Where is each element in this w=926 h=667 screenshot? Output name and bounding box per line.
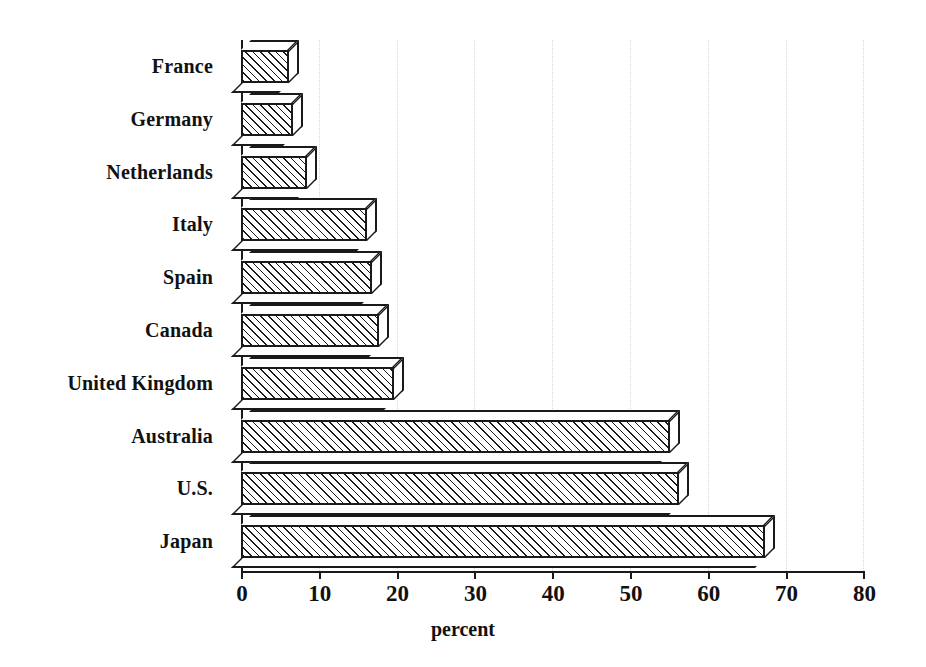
category-label-u-s: U.S. — [177, 478, 213, 498]
x-tick-40 — [552, 571, 554, 579]
x-tick-60 — [708, 571, 710, 579]
bar-top-face — [241, 410, 680, 420]
gridline-70 — [786, 40, 788, 571]
x-tick-30 — [474, 571, 476, 579]
bar-front-face — [241, 261, 372, 294]
bar-bottom-face — [231, 558, 765, 568]
bar-australia — [241, 410, 680, 463]
x-tick-label-30: 30 — [464, 581, 487, 606]
bar-front-face — [241, 525, 765, 558]
bar-front-face — [241, 50, 289, 83]
bar-front-face — [241, 472, 679, 505]
bar-top-face — [241, 357, 404, 367]
bar-bottom-face — [231, 241, 367, 251]
x-tick-80 — [863, 571, 865, 579]
bar-germany — [241, 93, 303, 146]
bar-top-face — [241, 198, 377, 208]
bar-top-face — [241, 146, 317, 156]
category-label-canada: Canada — [145, 320, 213, 340]
bar-chart: 01020304050607080 FranceGermanyNetherlan… — [0, 0, 926, 667]
bar-france — [241, 40, 299, 93]
bar-bottom-face — [231, 505, 679, 515]
x-tick-label-10: 10 — [308, 581, 331, 606]
category-labels: FranceGermanyNetherlandsItalySpainCanada… — [0, 0, 213, 667]
bar-side-face — [289, 40, 299, 83]
category-label-australia: Australia — [131, 426, 213, 446]
gridline-60 — [708, 40, 710, 571]
bar-side-face — [679, 462, 689, 505]
bar-netherlands — [241, 146, 317, 199]
bar-front-face — [241, 208, 367, 241]
bar-italy — [241, 198, 377, 251]
x-tick-70 — [786, 571, 788, 579]
bar-u-s — [241, 462, 689, 515]
bar-canada — [241, 304, 389, 357]
bar-side-face — [367, 198, 377, 241]
x-tick-50 — [630, 571, 632, 579]
category-label-united-kingdom: United Kingdom — [67, 373, 213, 393]
bar-front-face — [241, 103, 293, 136]
x-axis-title: percent — [0, 618, 926, 641]
category-label-france: France — [152, 56, 213, 76]
bar-bottom-face — [231, 83, 289, 93]
x-tick-label-80: 80 — [853, 581, 876, 606]
x-tick-label-60: 60 — [697, 581, 720, 606]
x-tick-label-70: 70 — [775, 581, 798, 606]
x-tick-20 — [397, 571, 399, 579]
bar-front-face — [241, 367, 394, 400]
bar-front-face — [241, 314, 379, 347]
bar-spain — [241, 251, 382, 304]
bar-united-kingdom — [241, 357, 404, 410]
category-label-netherlands: Netherlands — [106, 162, 213, 182]
bar-side-face — [379, 304, 389, 347]
category-label-italy: Italy — [172, 214, 213, 234]
bar-front-face — [241, 420, 670, 453]
x-tick-label-50: 50 — [620, 581, 643, 606]
bar-bottom-face — [231, 347, 379, 357]
bar-top-face — [241, 304, 389, 314]
bar-top-face — [241, 462, 689, 472]
bar-top-face — [241, 515, 775, 525]
bar-bottom-face — [231, 400, 394, 410]
bar-japan — [241, 515, 775, 568]
category-label-germany: Germany — [131, 109, 214, 129]
x-tick-label-40: 40 — [542, 581, 565, 606]
bar-top-face — [241, 251, 382, 261]
bar-bottom-face — [231, 294, 372, 304]
x-tick-10 — [319, 571, 321, 579]
bar-front-face — [241, 156, 307, 189]
bar-bottom-face — [231, 136, 293, 146]
x-tick-label-20: 20 — [386, 581, 409, 606]
x-tick-label-0: 0 — [236, 581, 248, 606]
gridline-80 — [863, 40, 865, 571]
category-label-japan: Japan — [160, 531, 213, 551]
category-label-spain: Spain — [163, 267, 213, 287]
x-tick-0 — [241, 571, 243, 579]
